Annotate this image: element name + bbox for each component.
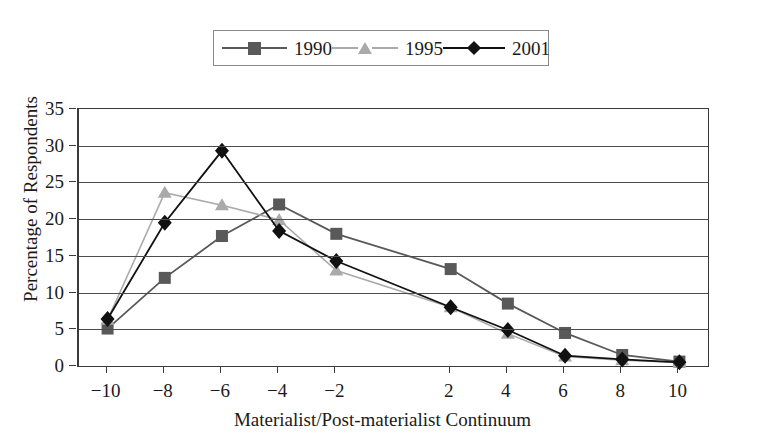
x-tick-mark [106, 366, 107, 373]
marker-square-icon [445, 263, 457, 275]
x-tick-mark [563, 366, 564, 373]
data-series-layer [79, 109, 708, 366]
legend-line-right-icon [479, 47, 505, 49]
series-1995 [101, 186, 687, 368]
plot-area [77, 108, 709, 367]
legend-line-right-icon [261, 47, 287, 49]
x-tick-mark [677, 366, 678, 373]
y-tick-mark [69, 255, 76, 256]
y-tick-mark [69, 108, 76, 109]
gridline [79, 182, 708, 183]
legend-line-left-icon [443, 47, 469, 49]
chart-legend: 199019952001 [213, 30, 549, 66]
series-line [108, 204, 680, 361]
legend-square-marker-icon [248, 42, 261, 55]
legend-entry-1995: 1995 [332, 39, 443, 58]
y-tick-mark [69, 145, 76, 146]
marker-square-icon [159, 272, 171, 284]
y-tick-label: 25 [24, 172, 64, 191]
x-tick-label: −10 [91, 381, 121, 400]
legend-line-left-icon [222, 47, 248, 49]
legend-entry-1990: 1990 [222, 39, 332, 58]
marker-square-icon [502, 298, 514, 310]
legend-diamond-marker-icon [467, 41, 481, 55]
legend-entry-2001: 2001 [443, 39, 550, 58]
x-tick-mark [334, 366, 335, 373]
gridline [79, 219, 708, 220]
marker-triangle-icon [158, 186, 172, 198]
x-tick-label: 2 [444, 381, 454, 400]
x-tick-mark [163, 366, 164, 373]
x-tick-mark [506, 366, 507, 373]
y-tick-label: 0 [24, 356, 64, 375]
y-tick-label: 15 [24, 245, 64, 264]
y-tick-mark [69, 365, 76, 366]
x-tick-label: 6 [558, 381, 568, 400]
gridline [79, 329, 708, 330]
y-tick-label: 10 [24, 282, 64, 301]
legend-triangle-marker-icon [358, 42, 372, 54]
x-tick-label: −2 [324, 381, 344, 400]
y-tick-label: 20 [24, 209, 64, 228]
x-tick-mark [220, 366, 221, 373]
x-tick-label: 10 [668, 381, 687, 400]
legend-label: 2001 [512, 39, 550, 58]
x-tick-label: −6 [210, 381, 230, 400]
y-tick-label: 5 [24, 319, 64, 338]
y-tick-mark [69, 328, 76, 329]
y-tick-mark [69, 218, 76, 219]
gridline [79, 293, 708, 294]
legend-line-right-icon [372, 47, 398, 49]
y-tick-mark [69, 292, 76, 293]
series-1990 [102, 198, 686, 367]
x-tick-label: −8 [153, 381, 173, 400]
series-line [108, 193, 680, 363]
legend-label: 1990 [294, 39, 332, 58]
marker-square-icon [330, 228, 342, 240]
y-tick-label: 30 [24, 135, 64, 154]
y-tick-mark [69, 181, 76, 182]
gridline [79, 146, 708, 147]
marker-diamond-icon [444, 299, 458, 315]
x-tick-label: −4 [267, 381, 287, 400]
legend-line-left-icon [332, 47, 358, 49]
y-tick-label: 35 [24, 99, 64, 118]
legend-label: 1995 [405, 39, 443, 58]
x-tick-label: 8 [615, 381, 625, 400]
x-tick-label: 4 [501, 381, 511, 400]
marker-square-icon [273, 198, 285, 210]
x-axis-title: Materialist/Post-materialist Continuum [0, 409, 765, 431]
gridline [79, 256, 708, 257]
x-tick-mark [620, 366, 621, 373]
chart-figure: 199019952001 Percentage of Respondents M… [0, 0, 765, 441]
marker-square-icon [216, 230, 228, 242]
x-tick-mark [449, 366, 450, 373]
x-tick-mark [277, 366, 278, 373]
